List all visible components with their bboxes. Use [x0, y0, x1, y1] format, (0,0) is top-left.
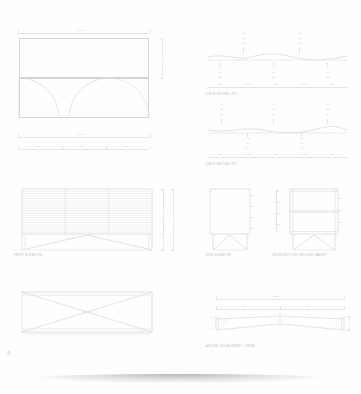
dim-tick — [251, 195, 254, 196]
dimension-leg-depth: 150 — [348, 320, 351, 327]
dimension-overall-lower: 1800 — [77, 133, 85, 136]
dim-value: 15 — [217, 76, 222, 79]
dimension-body-height: 600 — [162, 211, 165, 218]
dim-value: 30 — [217, 71, 222, 74]
caption-cross-section: CROSS SECTION THROUGH CABINET — [272, 254, 327, 257]
dim-value: 300 — [245, 83, 252, 86]
dim-value: 15 — [271, 76, 276, 79]
plan-view-bottom — [14, 288, 179, 348]
dim-tick — [339, 222, 342, 223]
dimension-depth: 450 — [161, 57, 164, 64]
dimension-bay-2: 600 — [78, 145, 85, 148]
dim-value: 45 — [271, 103, 276, 106]
dim-tick — [150, 134, 151, 137]
dim-leader — [273, 118, 274, 124]
dim-value: 15 — [271, 113, 276, 116]
dim-tick — [347, 330, 350, 331]
dim-tick — [62, 146, 63, 149]
curve-profile-path — [205, 125, 350, 135]
dim-tick — [339, 198, 342, 199]
dimension-line-split — [18, 149, 150, 150]
dim-value: 30 — [241, 37, 246, 40]
leg-frame-drawing — [206, 292, 354, 350]
dim-tick — [106, 146, 107, 149]
side-elevation: SIDE ELEVATION — [206, 186, 262, 262]
dimension-leg-height: 150 — [162, 239, 165, 246]
dimension-bay-1: 600 — [34, 145, 41, 148]
dim-value: 300 — [329, 83, 336, 86]
dim-value: 300 — [301, 153, 308, 156]
dim-tick — [161, 250, 164, 251]
cross-section: 150 150 150 150 CROSS SECTION THROUGH CA… — [272, 186, 354, 262]
dim-tick — [251, 206, 254, 207]
dim-value: 300 — [329, 153, 336, 156]
dim-value: 15 — [241, 42, 246, 45]
caption-front-elevation: FRONT ELEVATION — [14, 254, 42, 257]
dim-value: 45 — [241, 32, 246, 35]
dim-tick — [171, 189, 174, 190]
dim-tick — [161, 189, 164, 190]
plan-bracing-drawing — [14, 288, 179, 343]
page-number: 5 — [7, 350, 10, 356]
cross-section-drawing — [272, 186, 354, 256]
dim-value: 45 — [325, 103, 330, 106]
dim-value: 45 — [245, 137, 250, 140]
dim-value: 30 — [271, 71, 276, 74]
dim-tick — [171, 250, 174, 251]
dim-value: 45 — [299, 137, 304, 140]
dim-value: 30 — [219, 108, 224, 111]
dim-value: 45 — [217, 66, 222, 69]
page-curl-shadow — [28, 374, 328, 383]
dim-value: 300 — [301, 83, 308, 86]
leg-frame-detail: 1800 900 900 150 ANGLED LEG ASSEMB — [206, 292, 354, 352]
dim-value: 45 — [219, 103, 224, 106]
dim-value: 45 — [271, 66, 276, 69]
dim-value: 300 — [273, 83, 280, 86]
front-elevation-drawing — [14, 186, 179, 256]
curve-profile-2: 45 30 15 45 30 15 45 30 15 45 30 15 — [205, 103, 350, 169]
caption-curve-profile-1: CURVE SETTING OUT — [205, 93, 237, 96]
dim-value: 30 — [271, 108, 276, 111]
curve-profile-1: 45 30 15 45 30 15 45 30 15 45 30 15 — [205, 30, 350, 100]
dim-tick — [150, 146, 151, 149]
dim-value: 300 — [245, 153, 252, 156]
dim-tick — [160, 38, 163, 39]
dim-value: 45 — [325, 66, 330, 69]
dimension-overall-height: 750 — [172, 219, 175, 226]
dimension-line-base — [208, 157, 347, 158]
dim-value: 300 — [217, 153, 224, 156]
dim-value: 15 — [297, 42, 302, 45]
dim-value: 45 — [297, 32, 302, 35]
dim-tick — [18, 134, 19, 137]
dim-leader — [327, 118, 328, 124]
drawing-sheet: 1800 450 1800 600 600 600 — [0, 0, 361, 394]
dim-value: 30 — [325, 108, 330, 111]
dim-value: 300 — [273, 153, 280, 156]
caption-side-elevation: SIDE ELEVATION — [206, 254, 231, 257]
dim-value: 30 — [299, 142, 304, 145]
caption-leg-frame-detail: ANGLED LEG ASSEMBLY - DETAIL — [206, 345, 256, 348]
dim-leader — [221, 118, 222, 124]
front-elevation: 600 150 750 FRONT ELEVATION — [14, 186, 179, 262]
dim-tick — [18, 146, 19, 149]
dim-value: 15 — [299, 147, 304, 150]
caption-curve-profile-2: CURVE SETTING OUT — [205, 163, 237, 166]
dimension-line-base — [208, 87, 347, 88]
dim-value: 15 — [245, 147, 250, 150]
dim-tick — [339, 210, 342, 211]
dim-tick — [251, 217, 254, 218]
curve-profile-path — [205, 52, 350, 62]
dim-tick — [160, 78, 163, 79]
dim-tick — [251, 228, 254, 229]
dim-value: 300 — [217, 83, 224, 86]
dim-value: 15 — [219, 113, 224, 116]
dim-tick — [347, 316, 350, 317]
dim-value: 15 — [325, 76, 330, 79]
dim-value: 30 — [325, 71, 330, 74]
side-elevation-drawing — [206, 186, 262, 256]
dimension-bay-3: 600 — [122, 145, 129, 148]
plan-view-top: 1800 450 1800 600 600 600 — [14, 26, 174, 166]
dim-value: 15 — [325, 113, 330, 116]
dim-value: 30 — [297, 37, 302, 40]
dimension-line-lower — [18, 137, 150, 138]
